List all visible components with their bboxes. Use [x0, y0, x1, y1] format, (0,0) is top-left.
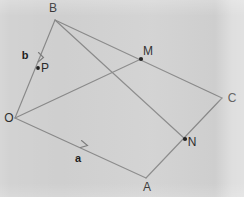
figure-vector-labels: a b — [22, 49, 82, 164]
vertex-label-A: A — [143, 180, 151, 194]
vertex-label-B: B — [49, 1, 57, 15]
edge-O-M — [15, 59, 141, 118]
vector-label-b: b — [22, 49, 29, 61]
figure-point-dots — [36, 57, 187, 141]
vector-geometry-figure: O B C A P M N a b — [0, 0, 244, 197]
vector-a-arrow-tick — [81, 141, 88, 148]
point-label-P: P — [41, 61, 49, 75]
figure-point-labels: P M N — [41, 44, 196, 149]
point-label-M: M — [143, 44, 153, 58]
vertex-label-C: C — [228, 91, 237, 105]
point-dot-P — [36, 66, 40, 70]
edge-C-B — [55, 20, 222, 98]
vector-label-a: a — [75, 152, 82, 164]
figure-vertex-labels: O B C A — [4, 1, 236, 194]
point-label-N: N — [188, 135, 197, 149]
diagram-canvas: O B C A P M N a b — [0, 0, 244, 197]
figure-edges — [15, 20, 222, 178]
edge-B-N — [55, 20, 185, 139]
vertex-label-O: O — [4, 111, 13, 125]
point-dot-N — [183, 137, 187, 141]
